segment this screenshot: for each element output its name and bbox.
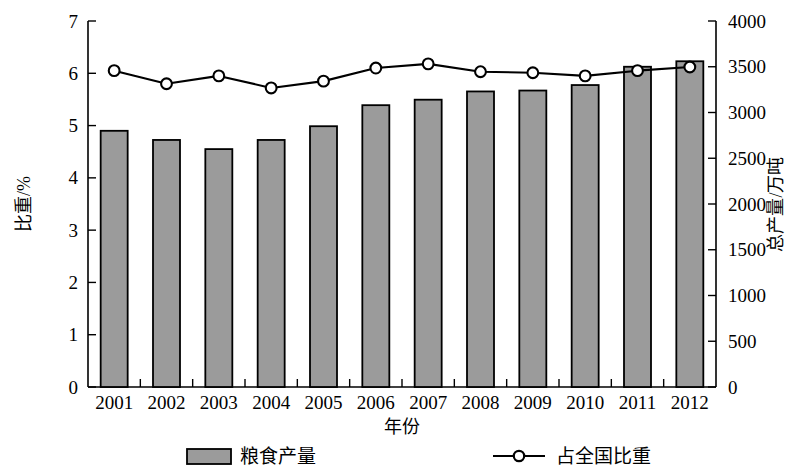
bar[interactable]	[153, 140, 180, 387]
x-axis-tick-label: 2011	[619, 392, 656, 413]
left-axis-tick-label: 1	[69, 324, 79, 345]
bar[interactable]	[415, 100, 442, 387]
grain-output-combo-chart: 01234567 0500100015002000250030003500400…	[0, 0, 804, 470]
chart-container: 01234567 0500100015002000250030003500400…	[0, 0, 804, 470]
legend-label-grain-output: 粮食产量	[240, 446, 316, 467]
bar-swatch-icon	[187, 449, 231, 464]
left-axis-tick-label: 5	[69, 115, 79, 136]
legend-item-grain-output[interactable]: 粮食产量	[187, 446, 316, 467]
x-axis-tick-label: 2008	[462, 392, 500, 413]
x-axis-tick-label: 2007	[409, 392, 447, 413]
data-point-marker[interactable]	[527, 67, 538, 78]
data-point-marker[interactable]	[632, 65, 643, 76]
bar[interactable]	[101, 131, 128, 387]
bar[interactable]	[572, 85, 599, 387]
right-axis-title: 总产量/万吨	[766, 156, 786, 251]
x-axis-tick-label: 2010	[566, 392, 604, 413]
right-axis-tick-label: 4000	[728, 11, 766, 32]
x-axis-tick-label: 2004	[252, 392, 291, 413]
x-axis-tick-label: 2006	[357, 392, 395, 413]
x-axis-title: 年份	[384, 417, 420, 437]
right-axis-tick-label: 3000	[728, 102, 766, 123]
x-axis-tick-label: 2005	[305, 392, 343, 413]
data-point-marker[interactable]	[266, 83, 277, 94]
data-point-marker[interactable]	[370, 63, 381, 74]
data-point-marker[interactable]	[423, 58, 434, 69]
bar[interactable]	[205, 149, 232, 387]
x-axis-tick-label: 2003	[200, 392, 238, 413]
x-axis-tick-label: 2002	[148, 392, 186, 413]
right-axis-tick-label: 0	[728, 377, 738, 398]
data-point-marker[interactable]	[580, 71, 591, 82]
legend-label-national-share: 占全国比重	[556, 446, 651, 467]
bar[interactable]	[310, 126, 337, 387]
left-axis-tick-label: 0	[69, 377, 79, 398]
left-axis-tick-label: 6	[69, 63, 79, 84]
data-point-marker[interactable]	[684, 62, 695, 73]
left-axis-title: 比重/%	[14, 176, 34, 232]
data-point-marker[interactable]	[109, 65, 120, 76]
bar[interactable]	[467, 91, 494, 387]
bar[interactable]	[519, 91, 546, 387]
bar[interactable]	[362, 105, 389, 387]
x-axis-tick-label: 2012	[671, 392, 709, 413]
left-axis-tick-label: 4	[69, 167, 79, 188]
bar[interactable]	[676, 61, 703, 387]
right-axis-tick-label: 500	[728, 331, 757, 352]
x-axis-tick-label: 2009	[514, 392, 552, 413]
x-axis-tick-label: 2001	[95, 392, 133, 413]
marker-swatch-icon	[514, 451, 524, 461]
right-axis-tick-label: 3500	[728, 56, 766, 77]
bar[interactable]	[258, 140, 285, 387]
data-point-marker[interactable]	[161, 78, 172, 89]
left-axis-tick-label: 3	[69, 220, 79, 241]
data-point-marker[interactable]	[475, 66, 486, 77]
data-point-marker[interactable]	[318, 76, 329, 87]
bar[interactable]	[624, 67, 651, 387]
right-axis-tick-label: 2000	[728, 194, 766, 215]
data-point-marker[interactable]	[213, 71, 224, 82]
right-axis-tick-label: 1500	[728, 239, 766, 260]
right-axis-tick-label: 1000	[728, 285, 766, 306]
left-axis-tick-label: 2	[69, 272, 79, 293]
right-axis-tick-label: 2500	[728, 148, 766, 169]
left-axis-tick-label: 7	[69, 11, 79, 32]
